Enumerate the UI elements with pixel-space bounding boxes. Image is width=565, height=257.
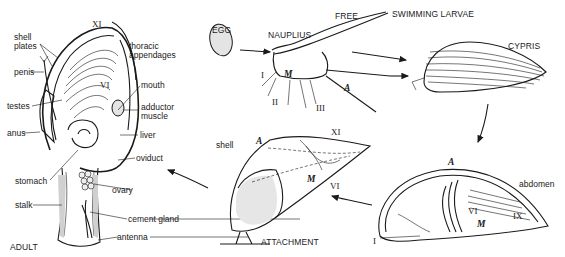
label-attachment-m: M — [307, 175, 315, 184]
label-attachment-vi: VI — [330, 182, 340, 191]
label-testes: testes — [7, 102, 30, 111]
label-attachment-shell: shell — [216, 141, 233, 150]
label-adductor-muscle: adductor muscle — [141, 103, 174, 121]
barnacle-life-cycle-diagram: shell plates penis testes anus stomach s… — [0, 0, 565, 257]
label-settled-m: M — [477, 220, 485, 229]
label-mouth: mouth — [141, 81, 165, 90]
label-stalk: stalk — [15, 201, 32, 210]
label-abdomen: abdomen — [519, 180, 554, 189]
label-swimming-larvae: SWIMMING LARVAE — [392, 10, 474, 19]
label-nauplius-a: A — [344, 84, 350, 93]
nauplius-illustration — [262, 12, 390, 112]
label-settled-i: I — [373, 237, 376, 246]
label-anus: anus — [7, 129, 25, 138]
label-attachment-a: A — [256, 137, 262, 146]
label-penis: penis — [14, 68, 34, 77]
label-attachment: ATTACHMENT — [261, 238, 319, 247]
label-antenna: antenna — [117, 233, 148, 242]
label-nauplius: NAUPLIUS — [268, 31, 311, 40]
life-cycle-arrows — [168, 50, 488, 205]
label-nauplius-i: I — [261, 71, 264, 80]
label-settled-vi: VI — [468, 207, 478, 216]
label-egg: EGG — [212, 26, 231, 35]
label-adult-vi: VI — [100, 81, 110, 90]
label-nauplius-m: M — [284, 70, 292, 79]
label-oviduct: oviduct — [136, 154, 163, 163]
label-ovary: ovary — [112, 186, 133, 195]
label-nauplius-ii: II — [272, 98, 278, 107]
label-thoracic-appendages: thoracic appendages — [129, 42, 176, 60]
label-adult: ADULT — [10, 243, 38, 252]
label-stomach: stomach — [15, 177, 47, 186]
label-shell-plates: shell plates — [14, 33, 37, 51]
label-settled-ix: IX — [513, 212, 523, 221]
label-nauplius-iii: III — [316, 104, 325, 113]
label-adult-xi: XI — [92, 20, 102, 29]
label-attachment-xi: XI — [331, 128, 341, 137]
label-settled-a: A — [448, 158, 454, 167]
label-cypris: CYPRIS — [508, 42, 540, 51]
label-liver: liver — [140, 131, 156, 140]
label-free: FREE — [335, 12, 358, 21]
attachment-illustration — [220, 137, 370, 244]
label-cement-gland: cement gland — [128, 215, 179, 224]
